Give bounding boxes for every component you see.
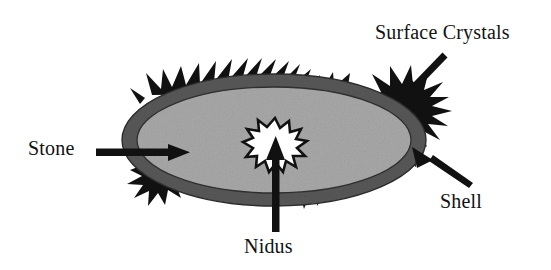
label-shell: Shell <box>440 191 482 211</box>
label-surface-crystals: Surface Crystals <box>375 22 510 42</box>
crystal-spike <box>130 88 145 104</box>
shell-arrow <box>412 147 473 188</box>
kidney-stone-diagram: Surface Crystals Stone Shell Nidus <box>0 0 551 270</box>
label-nidus: Nidus <box>244 236 293 256</box>
label-stone: Stone <box>28 138 75 158</box>
